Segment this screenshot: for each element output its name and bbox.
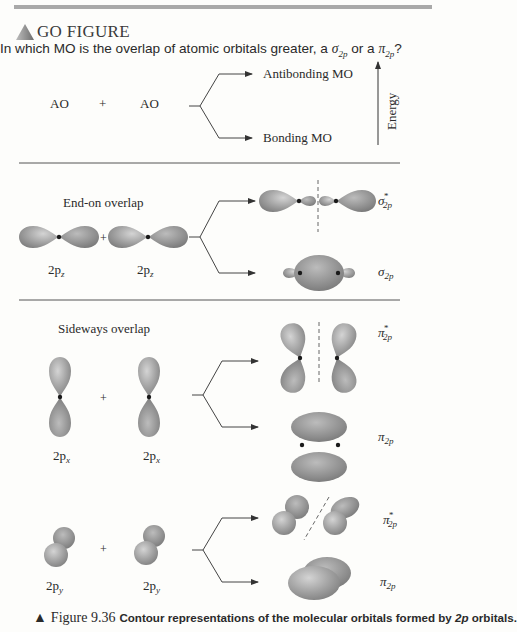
nucleus: [57, 235, 61, 239]
antibonding-arrow: [189, 201, 255, 237]
caption-italic: 2p: [455, 611, 469, 624]
plus-sign: +: [100, 542, 107, 556]
orbital-label-left: 2py: [46, 578, 63, 595]
py-panel: + 2py 2py π*2p π2p: [44, 493, 398, 600]
bonding-arrow: [200, 106, 252, 138]
orbital-label-right: 2py: [143, 578, 160, 595]
orbital-label-right: 2pz: [137, 262, 154, 279]
pi-star-py-label: π*2p: [383, 510, 398, 529]
2py-orbital-right: [134, 525, 165, 565]
pi-bonding-py-label: π2p: [380, 574, 396, 591]
panel-title: End-on overlap: [63, 195, 144, 210]
antibonding-arrow: [192, 518, 258, 550]
orbital-label-left: 2px: [53, 448, 70, 465]
energy-axis-label: Energy: [384, 92, 399, 130]
sideways-panel: Sideways overlap + 2px 2px π*2p: [49, 320, 394, 482]
sigma-bonding-label: σ2p: [378, 264, 394, 281]
panel-title: Sideways overlap: [58, 321, 150, 336]
generic-scheme: AO + AO Antibonding MO Bonding MO Energy: [50, 62, 399, 145]
pi-star-right: [325, 320, 359, 396]
sigma-star-label: σ*2p: [378, 191, 392, 210]
2px-orbital-left: [49, 357, 71, 437]
pi-star-py-left: [272, 495, 309, 535]
sigma-star-right-lobe: [319, 190, 376, 212]
end-on-panel: End-on overlap + 2pz 2pz σ*2p: [19, 180, 394, 291]
plus-sign: +: [99, 96, 106, 111]
plus-sign: +: [100, 391, 107, 405]
ao-left-label: AO: [50, 96, 69, 111]
orbital-label-left: 2pz: [48, 262, 65, 279]
pi-star-label: π*2p: [378, 323, 393, 342]
plus-sign: +: [100, 231, 107, 245]
bonding-arrow: [203, 550, 258, 582]
figure-number: Figure 9.36: [51, 610, 116, 625]
2px-orbital-right: [138, 357, 160, 437]
figure-caption: ▲ Figure 9.36 Contour representations of…: [33, 610, 517, 626]
bonding-arrow: [200, 237, 255, 273]
pi-star-left: [277, 320, 311, 396]
ao-right-label: AO: [140, 96, 159, 111]
pi-star-py-right: [323, 493, 363, 535]
antibonding-arrow: [189, 74, 252, 106]
pi-bonding-py-orbital: [288, 557, 351, 600]
bonding-label: Bonding MO: [263, 130, 332, 145]
2pz-orbital-right: [108, 226, 188, 248]
caption-end: orbitals.: [469, 611, 517, 624]
2pz-orbital-left: [19, 226, 99, 248]
2py-orbital-left: [44, 527, 75, 567]
sigma-bonding-orbital: [283, 255, 355, 291]
pi-bonding-orbital: [291, 412, 347, 482]
pi-bonding-label: π2p: [378, 429, 394, 446]
caption-marker: ▲: [33, 610, 47, 625]
sigma-star-left-lobe: [259, 190, 316, 212]
bonding-arrow: [203, 395, 258, 427]
antibonding-arrow: [192, 361, 258, 395]
antibonding-label: Antibonding MO: [263, 66, 353, 81]
orbital-label-right: 2px: [143, 448, 160, 465]
nucleus: [146, 235, 150, 239]
caption-text: Contour representations of the molecular…: [119, 611, 455, 624]
